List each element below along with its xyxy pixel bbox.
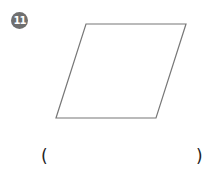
answer-open-paren: ( — [41, 146, 48, 166]
parallelogram-figure — [0, 0, 208, 170]
answer-close-paren: ) — [196, 146, 203, 166]
